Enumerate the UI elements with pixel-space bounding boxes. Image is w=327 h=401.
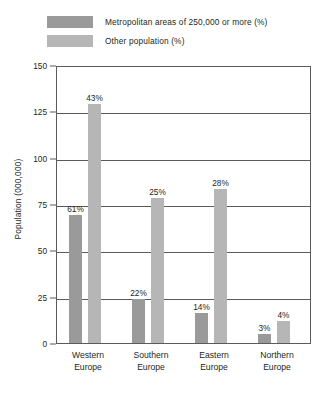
y-tick-label-75: 75	[38, 200, 47, 210]
legend-label-metropolitan: Metropolitan areas of 250,000 or more (%…	[105, 17, 268, 27]
bar-group-southern-europe: 22% 25%	[132, 67, 164, 343]
bar-value-northern-europe-other: 4%	[278, 310, 290, 320]
chart-legend: Metropolitan areas of 250,000 or more (%…	[0, 14, 327, 54]
bar-western-europe-other[interactable]: 43%	[88, 104, 101, 343]
legend-item-other: Other population (%)	[47, 33, 185, 49]
y-axis: 150 125 100 75 50 25 0 Population (000,0…	[0, 66, 56, 344]
x-label-southern-europe: Southern Europe	[115, 349, 187, 373]
y-axis-title: Population (000,000)	[13, 119, 23, 279]
bar-eastern-europe-other[interactable]: 28%	[214, 189, 227, 343]
x-label-western-europe-line2: Europe	[52, 361, 124, 373]
y-tick-label-0: 0	[42, 339, 47, 349]
y-tick-label-125: 125	[33, 107, 47, 117]
bar-group-northern-europe: 3% 4%	[258, 67, 290, 343]
bar-value-southern-europe-other: 25%	[149, 187, 166, 197]
bar-southern-europe-other[interactable]: 25%	[151, 198, 164, 343]
bar-value-western-europe-metropolitan: 61%	[67, 204, 84, 214]
bar-value-eastern-europe-other: 28%	[212, 178, 229, 188]
bar-group-western-europe: 61% 43%	[69, 67, 101, 343]
bar-value-southern-europe-metropolitan: 22%	[130, 288, 147, 298]
y-tick-label-100: 100	[33, 154, 47, 164]
y-tick-label-25: 25	[38, 293, 47, 303]
x-label-southern-europe-line2: Europe	[115, 361, 187, 373]
x-axis: Western Europe Southern Europe Eastern E…	[56, 349, 311, 389]
legend-swatch-metropolitan	[47, 16, 93, 28]
plot-area: 61% 43% 22% 25% 14%	[56, 66, 311, 344]
x-label-northern-europe-line2: Europe	[241, 361, 313, 373]
x-label-eastern-europe-line2: Europe	[178, 361, 250, 373]
bar-northern-europe-other[interactable]: 4%	[277, 321, 290, 343]
y-tick-label-150: 150	[33, 61, 47, 71]
x-label-eastern-europe-line1: Eastern	[178, 349, 250, 361]
legend-swatch-other	[47, 35, 93, 47]
bar-value-northern-europe-metropolitan: 3%	[259, 323, 271, 333]
bar-eastern-europe-metropolitan[interactable]: 14%	[195, 313, 208, 343]
x-label-western-europe: Western Europe	[52, 349, 124, 373]
x-label-northern-europe-line1: Northern	[241, 349, 313, 361]
legend-item-metropolitan: Metropolitan areas of 250,000 or more (%…	[47, 14, 268, 30]
legend-label-other: Other population (%)	[105, 36, 185, 46]
x-label-southern-europe-line1: Southern	[115, 349, 187, 361]
x-label-eastern-europe: Eastern Europe	[178, 349, 250, 373]
bar-southern-europe-metropolitan[interactable]: 22%	[132, 299, 145, 344]
x-label-western-europe-line1: Western	[52, 349, 124, 361]
bar-western-europe-metropolitan[interactable]: 61%	[69, 215, 82, 343]
bar-northern-europe-metropolitan[interactable]: 3%	[258, 334, 271, 343]
x-label-northern-europe: Northern Europe	[241, 349, 313, 373]
bar-group-eastern-europe: 14% 28%	[195, 67, 227, 343]
y-tick-label-50: 50	[38, 246, 47, 256]
bar-value-eastern-europe-metropolitan: 14%	[193, 302, 210, 312]
bar-chart-figure: Metropolitan areas of 250,000 or more (%…	[0, 0, 327, 401]
bar-value-western-europe-other: 43%	[86, 93, 103, 103]
bars-layer: 61% 43% 22% 25% 14%	[57, 67, 310, 343]
